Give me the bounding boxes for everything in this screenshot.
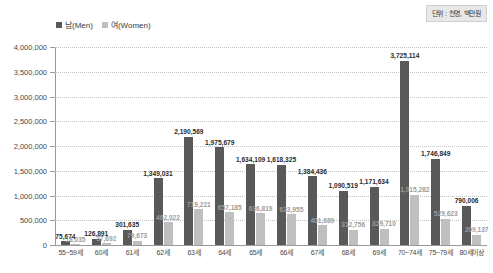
bar-group: 75,67418,035 [55, 47, 86, 245]
bar-value-label: 1,090,519 [328, 183, 357, 190]
bar-value-label: 462,022 [156, 215, 180, 222]
x-axis-labels: 55~59세60세61세62세63세64세65세66세67세68세69세70~7… [55, 247, 487, 257]
y-axis-label: 1,500,000 [14, 166, 47, 175]
x-axis-label: 75~79세 [425, 247, 456, 257]
bar: 1,090,519 [339, 191, 348, 245]
bar: 329,710 [380, 229, 389, 245]
bar-value-label: 636,819 [249, 206, 273, 213]
bar: 462,022 [164, 222, 173, 245]
bar: 1,349,031 [154, 178, 163, 245]
bar: 1,015,282 [410, 195, 419, 245]
legend-swatch-men-icon [56, 22, 62, 28]
bar: 1,975,679 [215, 147, 224, 245]
y-axis-label: 3,500,000 [14, 67, 47, 76]
bar: 209,137 [472, 235, 481, 245]
bar-value-label: 1,384,436 [298, 169, 327, 176]
bar-value-label: 401,689 [310, 218, 334, 225]
bar-value-label: 529,623 [434, 211, 458, 218]
y-axis-tick [50, 245, 55, 246]
bar: 1,171,634 [370, 187, 379, 245]
bar-group: 1,090,519312,756 [333, 47, 364, 245]
bar: 719,221 [194, 209, 203, 245]
bar-group: 301,63579,673 [117, 47, 148, 245]
y-axis-label: 2,500,000 [14, 117, 47, 126]
bar-value-label: 79,673 [127, 233, 147, 240]
x-axis-label: 68세 [333, 247, 364, 257]
bar: 18,035 [71, 244, 80, 245]
x-axis-label: 62세 [148, 247, 179, 257]
plot-area: 0500,0001,000,0001,500,0002,000,0002,500… [55, 47, 487, 245]
bar: 2,190,569 [184, 137, 193, 245]
bar: 79,673 [133, 241, 142, 245]
bar-value-label: 3,725,114 [390, 53, 419, 60]
x-axis-label: 63세 [178, 247, 209, 257]
unit-note: 단위 : 천명, 백만원 [426, 5, 487, 22]
bar-value-label: 329,710 [372, 221, 396, 228]
legend-label-women: 여(Women) [111, 19, 151, 30]
bar-value-label: 18,035 [65, 237, 85, 244]
x-axis-label: 80세이상 [456, 247, 487, 257]
bar-group: 1,746,849529,623 [425, 47, 456, 245]
bar-group: 1,349,031462,022 [148, 47, 179, 245]
gridline [55, 245, 487, 246]
bar-value-label: 790,006 [455, 198, 479, 205]
bar: 401,689 [318, 225, 327, 245]
x-axis-label: 64세 [209, 247, 240, 257]
bar: 657,185 [225, 212, 234, 245]
bar-group: 3,725,1141,015,282 [394, 47, 425, 245]
bar-chart: 단위 : 천명, 백만원 남(Men) 여(Women) 0500,0001,0… [0, 0, 493, 273]
bar-groups: 75,67418,035126,89137,692301,63579,6731,… [55, 47, 487, 245]
legend-item-women: 여(Women) [102, 19, 151, 30]
bar-value-label: 209,137 [465, 227, 489, 234]
bar-group: 1,171,634329,710 [364, 47, 395, 245]
y-axis-label: 3,000,000 [14, 92, 47, 101]
bar-group: 126,89137,692 [86, 47, 117, 245]
bar: 37,692 [102, 243, 111, 245]
bar-group: 790,006209,137 [456, 47, 487, 245]
bar-value-label: 623,955 [280, 207, 304, 214]
bar: 312,756 [349, 230, 358, 245]
bar-value-label: 2,190,569 [174, 129, 203, 136]
legend-label-men: 남(Men) [65, 19, 93, 30]
legend-swatch-women-icon [102, 22, 108, 28]
legend-item-men: 남(Men) [56, 19, 93, 30]
bar-group: 1,384,436401,689 [302, 47, 333, 245]
bar: 1,384,436 [308, 176, 317, 245]
bar-value-label: 1,618,325 [267, 157, 296, 164]
x-axis-label: 66세 [271, 247, 302, 257]
x-axis-label: 60세 [86, 247, 117, 257]
bar-value-label: 719,221 [187, 202, 211, 209]
y-axis-label: 2,000,000 [14, 142, 47, 151]
x-axis-label: 70~74세 [394, 247, 425, 257]
bar-value-label: 1,349,031 [143, 171, 172, 178]
bar: 1,746,849 [431, 159, 440, 245]
bar: 3,725,114 [400, 61, 409, 245]
bar-value-label: 312,756 [341, 222, 365, 229]
chart-legend: 남(Men) 여(Women) [56, 19, 151, 30]
bar-value-label: 37,692 [96, 236, 116, 243]
bar: 529,623 [441, 219, 450, 245]
x-axis-label: 69세 [364, 247, 395, 257]
y-axis-label: 500,000 [20, 216, 47, 225]
x-axis-label: 61세 [117, 247, 148, 257]
y-axis-label: 4,000,000 [14, 43, 47, 52]
bar-value-label: 1,975,679 [205, 140, 234, 147]
bar-value-label: 1,746,849 [421, 151, 450, 158]
x-axis-label: 65세 [240, 247, 271, 257]
bar-value-label: 301,635 [115, 222, 139, 229]
y-axis-label: 1,000,000 [14, 191, 47, 200]
bar-value-label: 1,634,109 [236, 157, 265, 164]
y-axis-label: 0 [43, 241, 47, 250]
bar-group: 1,634,109636,819 [240, 47, 271, 245]
bar: 636,819 [256, 213, 265, 245]
x-axis-label: 67세 [302, 247, 333, 257]
bar-group: 1,618,325623,955 [271, 47, 302, 245]
x-axis-label: 55~59세 [55, 247, 86, 257]
bar-value-label: 657,185 [218, 205, 242, 212]
bar-value-label: 1,171,634 [359, 179, 388, 186]
bar: 623,955 [287, 214, 296, 245]
bar-group: 1,975,679657,185 [209, 47, 240, 245]
